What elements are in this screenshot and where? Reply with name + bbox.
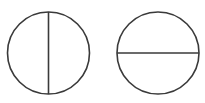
right-circle-group	[117, 12, 199, 94]
two-circles-diagram	[0, 0, 205, 103]
diagram-canvas	[0, 0, 205, 103]
left-circle-group	[8, 12, 90, 94]
